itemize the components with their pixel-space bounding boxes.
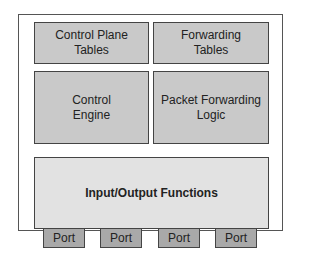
control-engine-block: ControlEngine	[34, 71, 149, 144]
label: Control	[72, 93, 111, 108]
label: Packet Forwarding	[161, 93, 261, 108]
label: Control Plane	[55, 28, 128, 43]
label: Forwarding	[181, 28, 241, 43]
port-3: Port	[158, 228, 200, 248]
port-1: Port	[43, 228, 85, 248]
label: Tables	[55, 43, 128, 58]
control-plane-tables-block: Control PlaneTables	[34, 22, 149, 64]
forwarding-tables-block: ForwardingTables	[153, 22, 269, 64]
io-functions-block: Input/Output Functions	[34, 157, 269, 229]
label: Tables	[181, 43, 241, 58]
label: Logic	[161, 108, 261, 123]
port-4: Port	[215, 228, 257, 248]
port-2: Port	[100, 228, 142, 248]
label: Engine	[72, 108, 111, 123]
label: Input/Output Functions	[85, 186, 218, 201]
packet-forwarding-logic-block: Packet ForwardingLogic	[153, 71, 269, 144]
